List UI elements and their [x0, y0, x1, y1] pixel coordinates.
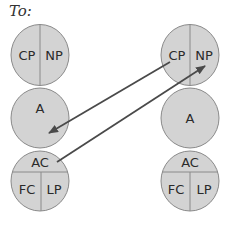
left-middle-circle: A	[11, 88, 69, 148]
right-ac-label: AC	[181, 155, 199, 170]
right-np-label: NP	[195, 48, 213, 63]
left-cp-label: CP	[19, 48, 36, 63]
left-a-label: A	[36, 101, 45, 116]
right-cp-label: CP	[169, 48, 186, 63]
left-column: CP NP A AC FC LP	[11, 25, 69, 212]
left-top-circle: CP NP	[11, 25, 69, 86]
diagram: CP NP A AC FC LP CP NP A	[0, 0, 234, 227]
right-bottom-circle: AC FC LP	[161, 151, 219, 211]
right-column: CP NP A AC FC LP	[161, 25, 219, 212]
right-middle-circle: A	[161, 88, 219, 148]
right-fc-label: FC	[168, 182, 185, 197]
right-a-label: A	[186, 111, 195, 126]
left-np-label: NP	[45, 48, 63, 63]
arrow-cp-to-a	[49, 62, 170, 133]
left-fc-label: FC	[19, 182, 36, 197]
left-ac-label: AC	[31, 155, 49, 170]
right-lp-label: LP	[196, 182, 211, 197]
left-lp-label: LP	[46, 182, 61, 197]
